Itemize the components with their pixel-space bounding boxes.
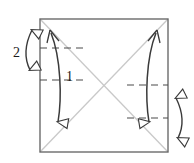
outer-arrow-right-double (176, 98, 182, 138)
fold-label-1: 1 (66, 69, 73, 84)
outer-arrow-left-double (26, 30, 32, 70)
inner-arrow-left-down (47, 30, 60, 122)
fold-diagram: 2 1 (0, 0, 194, 163)
diagram-canvas: 2 1 (0, 0, 194, 163)
fold-label-2: 2 (13, 45, 20, 60)
inner-arrow-right-up (147, 30, 160, 122)
diagonal-group (40, 19, 168, 152)
